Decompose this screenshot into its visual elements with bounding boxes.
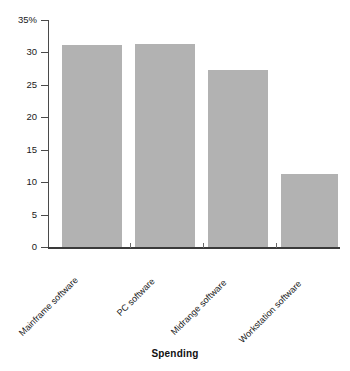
- y-axis-label-30: 30: [26, 47, 37, 57]
- y-tick-20: [41, 117, 48, 118]
- y-tick-10: [41, 182, 48, 183]
- x-axis-label-mainframe-software: Mainframe software: [17, 275, 80, 338]
- y-axis-label-20: 20: [26, 112, 37, 122]
- x-axis-label-pc-software: PC software: [115, 276, 157, 318]
- y-tick-35: [41, 20, 48, 21]
- y-axis-label-0: 0: [32, 242, 37, 252]
- y-axis-label-15: 15: [26, 145, 37, 155]
- x-tick-3: [276, 243, 277, 248]
- x-tick-2: [203, 243, 204, 248]
- bar-midrange-software: [208, 70, 268, 247]
- x-axis-label-workstation-software: Workstation software: [237, 279, 303, 345]
- bar-pc-software: [135, 44, 195, 247]
- y-axis-label-25: 25: [26, 80, 37, 90]
- y-tick-30: [41, 52, 48, 53]
- y-axis-label-5: 5: [32, 210, 37, 220]
- y-tick-5: [41, 215, 48, 216]
- y-tick-0: [41, 247, 48, 248]
- bar-chart: 35% 30 25 20 15 10 5 0 Mainframe softwar…: [0, 0, 350, 371]
- y-tick-15: [41, 150, 48, 151]
- x-tick-1: [130, 243, 131, 248]
- y-axis-label-10: 10: [26, 177, 37, 187]
- y-axis-label-35: 35%: [18, 15, 37, 25]
- bar-workstation-software: [281, 174, 338, 247]
- plot-area: [48, 20, 338, 247]
- y-tick-25: [41, 85, 48, 86]
- x-axis-line: [48, 247, 340, 249]
- bar-mainframe-software: [62, 45, 122, 247]
- x-axis-title: Spending: [0, 348, 350, 359]
- x-axis-label-midrange-software: Midrange software: [169, 278, 228, 337]
